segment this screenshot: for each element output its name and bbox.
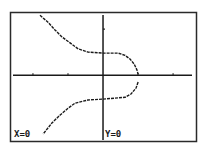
x-readout-label: X=0: [14, 129, 30, 139]
calculator-graph-screen: X=0 Y=0: [0, 0, 206, 149]
y-readout-label: Y=0: [105, 129, 121, 139]
